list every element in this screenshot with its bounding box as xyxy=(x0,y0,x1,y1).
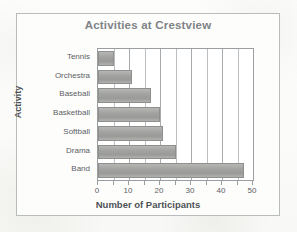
y-tick-label-basketball: Basketball xyxy=(53,104,90,123)
bar-tennis xyxy=(98,51,114,66)
bar-baseball xyxy=(98,88,151,103)
x-tick-label-40: 40 xyxy=(217,186,226,195)
x-tick-mark xyxy=(221,181,222,185)
x-tick-mark xyxy=(175,181,176,185)
x-axis-tick-labels: 01020304050 xyxy=(97,186,254,198)
x-tick-label-10: 10 xyxy=(124,186,133,195)
y-tick-label-tennis: Tennis xyxy=(67,48,90,67)
y-tick-label-band: Band xyxy=(71,160,90,179)
y-tick-label-baseball: Baseball xyxy=(59,85,90,104)
y-axis-title: Activity xyxy=(13,67,23,137)
bar-orchestra xyxy=(98,70,132,85)
y-axis-tick-labels: TennisOrchestraBaseballBasketballSoftbal… xyxy=(34,48,94,181)
y-tick-label-softball: Softball xyxy=(63,123,90,142)
x-tick-mark xyxy=(252,181,253,185)
x-tick-mark xyxy=(97,181,98,185)
x-axis-title: Number of Participants xyxy=(16,199,280,210)
x-tick-label-0: 0 xyxy=(95,186,99,195)
gridline xyxy=(253,49,254,180)
x-tick-mark xyxy=(237,181,238,185)
x-tick-label-50: 50 xyxy=(248,186,257,195)
x-tick-mark xyxy=(159,181,160,185)
bar-drama xyxy=(98,145,176,160)
x-tick-label-30: 30 xyxy=(186,186,195,195)
y-tick-label-drama: Drama xyxy=(66,142,90,161)
bar-softball xyxy=(98,126,163,141)
x-tick-mark xyxy=(190,181,191,185)
bar-band xyxy=(98,163,244,178)
chart-figure: Activities at Crestview Activity TennisO… xyxy=(0,0,297,232)
x-tick-mark xyxy=(128,181,129,185)
x-tick-mark xyxy=(113,181,114,185)
bar-series xyxy=(98,49,253,180)
chart-title: Activities at Crestview xyxy=(16,19,280,31)
plot-area xyxy=(97,48,254,181)
bar-basketball xyxy=(98,107,160,122)
x-tick-mark xyxy=(206,181,207,185)
x-axis-tick-marks xyxy=(97,181,254,185)
y-tick-label-orchestra: Orchestra xyxy=(55,67,90,86)
x-tick-label-20: 20 xyxy=(155,186,164,195)
x-tick-mark xyxy=(144,181,145,185)
